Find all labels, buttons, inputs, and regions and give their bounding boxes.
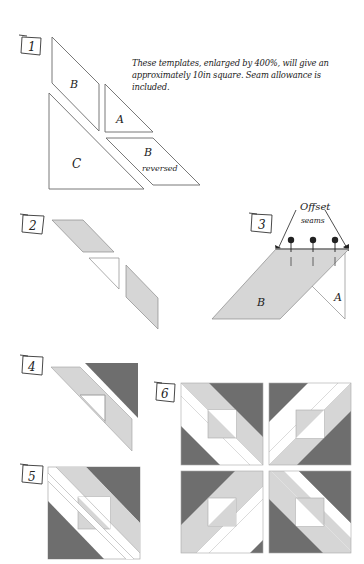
template-b-reversed-letter: B bbox=[143, 146, 152, 159]
step-2-parallelogram-lower bbox=[126, 265, 158, 329]
block-bottom-right bbox=[269, 471, 351, 553]
callout-seams: seams bbox=[301, 216, 325, 225]
template-c-label: C bbox=[72, 157, 81, 171]
block-bottom-left bbox=[181, 471, 263, 553]
step-2-triangle bbox=[89, 258, 119, 289]
step-4-assembly bbox=[51, 363, 138, 451]
step-3-label-box: 3 bbox=[249, 213, 272, 233]
block-top-right bbox=[269, 383, 351, 465]
step-6-number: 6 bbox=[161, 387, 169, 401]
template-a-label: A bbox=[115, 113, 124, 126]
step-1-label-box: 1 bbox=[19, 35, 41, 55]
step-4-number: 4 bbox=[27, 360, 36, 374]
callout-offset: Offset bbox=[300, 201, 331, 212]
template-b-reversed-word: reversed bbox=[142, 164, 178, 173]
step-2-number: 2 bbox=[28, 219, 37, 233]
step-1-note: These templates, enlarged by 400%, will … bbox=[132, 57, 332, 93]
step-3-number: 3 bbox=[258, 218, 266, 232]
block-top-left bbox=[181, 383, 263, 465]
step-3-assembly: B A bbox=[212, 237, 349, 319]
step-2-parallelogram-upper bbox=[52, 220, 114, 252]
step-6-label-box: 6 bbox=[154, 382, 175, 402]
white-triangle bbox=[80, 395, 105, 421]
step-6-quilt bbox=[181, 383, 351, 553]
step-1-number: 1 bbox=[28, 40, 36, 54]
step-3-offset-seams-callout: Offset seams bbox=[275, 201, 349, 252]
piece-a-label: A bbox=[333, 291, 342, 304]
step-5-label-box: 5 bbox=[20, 464, 43, 484]
piece-b-label: B bbox=[256, 296, 265, 309]
step-5-block bbox=[48, 467, 140, 559]
step-4-label-box: 4 bbox=[20, 355, 43, 375]
step-2-label-box: 2 bbox=[20, 214, 44, 234]
step-5-number: 5 bbox=[28, 470, 36, 484]
template-b-label: B bbox=[69, 78, 78, 91]
